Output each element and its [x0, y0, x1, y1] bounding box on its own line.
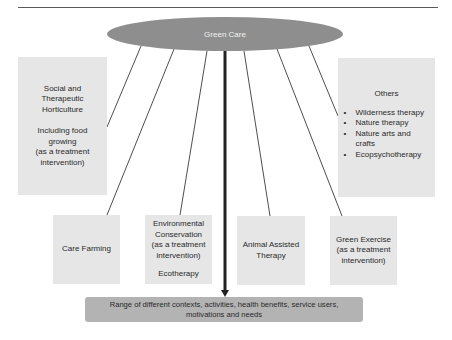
box-text: Therapy	[256, 251, 285, 262]
connector-others	[309, 46, 338, 116]
box-text: Therapeutic	[41, 94, 83, 105]
bullet-icon: •	[344, 108, 347, 119]
care-farming-box: Care Farming	[53, 215, 120, 284]
box-text: Green Exercise	[336, 235, 391, 246]
others-title: Others	[374, 89, 398, 100]
list-item-text: Ecopsychotherapy	[356, 150, 422, 159]
box-text: intervention)	[156, 251, 200, 262]
environmental-conservation-box: Environmental Conservation (as a treatme…	[145, 215, 212, 284]
bullet-icon: •	[344, 129, 347, 140]
outcome-range-box: Range of different contexts, activities,…	[85, 297, 363, 322]
box-text: Animal Assisted	[243, 240, 299, 251]
box-text: Environmental	[153, 219, 204, 230]
box-text: Ecotherapy	[158, 269, 198, 280]
connector-exercise	[277, 49, 342, 216]
box-text: (as a treatment	[337, 245, 391, 256]
green-exercise-box: Green Exercise (as a treatment intervent…	[330, 216, 397, 285]
green-care-ellipse: Green Care	[107, 17, 343, 51]
list-item: •Wilderness therapy	[344, 108, 430, 119]
box-text: Care Farming	[62, 244, 111, 255]
connector-social	[107, 46, 141, 127]
main-arrow-head	[221, 290, 229, 297]
bullet-icon: •	[344, 150, 347, 161]
connector-environmental	[180, 51, 207, 215]
list-item-text: Nature arts and crafts	[356, 129, 411, 149]
list-item-text: Wilderness therapy	[356, 108, 424, 117]
others-list: •Wilderness therapy •Nature therapy •Nat…	[344, 108, 430, 161]
box-text: Social and	[44, 84, 81, 95]
box-text: motivations and needs	[85, 310, 363, 320]
social-therapeutic-horticulture-box: Social and Therapeutic Horticulture Incl…	[18, 57, 107, 195]
box-text: Horticulture	[42, 105, 83, 116]
list-item: •Nature arts and crafts	[344, 129, 430, 150]
list-item: •Ecopsychotherapy	[344, 150, 430, 161]
green-care-label: Green Care	[204, 30, 246, 39]
box-text: Range of different contexts, activities,…	[85, 300, 363, 310]
box-text: intervention)	[40, 158, 84, 169]
others-box: Others •Wilderness therapy •Nature thera…	[338, 58, 435, 197]
box-text: (as a treatment	[36, 147, 90, 158]
animal-assisted-therapy-box: Animal Assisted Therapy	[237, 216, 305, 285]
box-text: growing	[48, 137, 76, 148]
box-text: intervention)	[341, 256, 385, 267]
list-item-text: Nature therapy	[356, 118, 409, 127]
connector-care-farming	[107, 49, 174, 215]
connector-animal	[244, 51, 270, 216]
box-text: Including food	[38, 126, 88, 137]
box-text: (as a treatment	[152, 240, 206, 251]
bullet-icon: •	[344, 118, 347, 129]
box-text: Conservation	[155, 230, 202, 241]
list-item: •Nature therapy	[344, 118, 430, 129]
